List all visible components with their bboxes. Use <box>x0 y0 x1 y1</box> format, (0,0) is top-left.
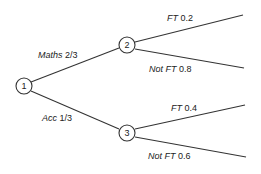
branch-label-3-notft: Not FT 0.6 <box>148 151 191 161</box>
branch-label-maths: Maths 2/3 <box>38 50 78 60</box>
branch-label-2-notft: Not FT 0.8 <box>149 64 192 74</box>
node-2: 2 <box>119 37 135 53</box>
probability-tree-diagram: 1 2 3 Maths 2/3 Acc 1/3 FT 0.2 Not FT 0.… <box>0 0 261 174</box>
edge-1-3 <box>31 91 119 129</box>
branch-label-2-ft: FT 0.2 <box>167 13 193 23</box>
node-2-label: 2 <box>124 40 129 50</box>
node-1: 1 <box>16 78 32 94</box>
node-3-label: 3 <box>124 128 129 138</box>
node-3: 3 <box>119 125 135 141</box>
node-1-label: 1 <box>21 81 26 91</box>
branch-label-acc: Acc 1/3 <box>41 113 72 123</box>
branch-label-3-ft: FT 0.4 <box>171 103 197 113</box>
